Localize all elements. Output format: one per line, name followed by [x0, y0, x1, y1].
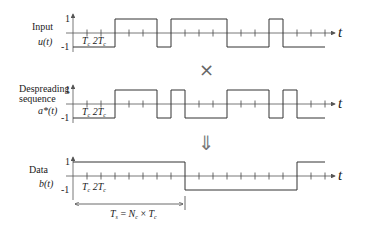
y-top-label: 1: [65, 84, 70, 95]
signal-label: u(t): [38, 36, 53, 48]
double-down-arrow-icon: ⇓: [198, 131, 215, 155]
y-bottom-label: -1: [61, 184, 69, 195]
panel-input: Input u(t) 1 -1 t Tc 2Tc: [32, 13, 343, 52]
symbol-period-label: Ts = Nc × Tc: [110, 208, 157, 220]
panel-title-line2: sequence: [19, 93, 56, 104]
tick-label-tc: Tc 2Tc: [82, 106, 106, 118]
y-top-label: 1: [65, 156, 70, 167]
despreading-diagram: Input u(t) 1 -1 t Tc 2Tc × Despreading s…: [0, 0, 365, 226]
tick-label-tc: Tc 2Tc: [82, 35, 106, 47]
time-axis-label: t: [338, 167, 343, 183]
tick-label-tc: Tc 2Tc: [82, 181, 106, 193]
multiply-icon: ×: [199, 59, 214, 80]
y-top-label: 1: [65, 13, 70, 24]
panel-title: Data: [29, 164, 48, 175]
time-axis-label: t: [338, 24, 343, 40]
y-bottom-label: -1: [61, 112, 69, 123]
y-bottom-label: -1: [61, 41, 69, 52]
panel-data: Data b(t) 1 -1 t Tc 2Tc Ts = Nc × Tc: [29, 156, 343, 220]
time-axis-label: t: [338, 95, 343, 111]
signal-label: a*(t): [38, 105, 58, 117]
panel-title: Input: [32, 21, 53, 32]
signal-label: b(t): [39, 178, 54, 190]
panel-despreading: Despreading sequence a*(t) 1 -1 t Tc 2Tc: [19, 83, 343, 123]
